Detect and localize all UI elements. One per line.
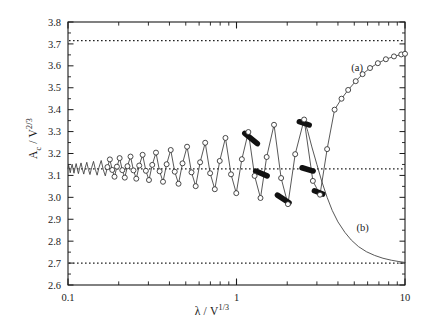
data-point-marker — [279, 176, 284, 181]
data-point-marker — [143, 168, 148, 173]
data-point-marker — [368, 66, 373, 71]
chart-plot-area: 2.62.72.82.93.03.13.23.33.43.53.63.73.80… — [0, 0, 424, 331]
data-point-marker — [353, 79, 358, 84]
data-point-marker — [137, 163, 142, 168]
data-point-marker — [325, 147, 330, 152]
data-point-marker — [403, 51, 408, 56]
y-tick-label: 3.7 — [48, 39, 61, 50]
data-point-marker — [172, 169, 177, 174]
data-point-marker — [105, 165, 110, 170]
data-point-marker — [223, 135, 228, 140]
y-tick-label: 3.4 — [48, 104, 62, 115]
y-tick-label: 3.3 — [48, 126, 61, 137]
data-point-marker — [239, 157, 244, 162]
figure-container: Ac / V2/3 λ / V1/3 2.62.72.82.93.03.13.2… — [0, 0, 424, 331]
data-point-marker — [332, 107, 337, 112]
data-point-marker — [198, 160, 203, 165]
data-point-marker — [164, 162, 169, 167]
data-point-marker — [168, 147, 173, 152]
data-point-marker — [157, 169, 162, 174]
y-tick-label: 2.9 — [48, 214, 61, 225]
data-point-marker — [131, 168, 136, 173]
branch-a-label: (a) — [351, 62, 363, 74]
y-tick-label: 3.0 — [48, 192, 61, 203]
data-point-marker — [203, 140, 208, 145]
data-point-marker — [114, 164, 119, 169]
y-tick-label: 3.2 — [48, 148, 61, 159]
data-point-marker — [180, 161, 185, 166]
data-point-marker — [229, 172, 234, 177]
data-point-marker — [272, 122, 277, 127]
x-tick-label: 1 — [234, 292, 239, 303]
data-point-marker — [246, 130, 251, 135]
data-point-marker — [150, 162, 155, 167]
data-point-marker — [185, 144, 190, 149]
data-point-marker — [107, 157, 112, 162]
data-point-marker — [208, 171, 213, 176]
data-point-marker — [140, 152, 145, 157]
spiral-branch — [68, 54, 405, 204]
data-point-marker — [391, 54, 396, 59]
data-point-marker — [264, 155, 269, 160]
thick-highlight-segments — [245, 122, 323, 203]
x-tick-label: 0.1 — [61, 292, 74, 303]
data-point-marker — [134, 176, 139, 181]
y-tick-label: 3.6 — [48, 60, 61, 71]
data-point-marker — [161, 179, 166, 184]
x-tick-label: 10 — [400, 292, 411, 303]
data-point-marker — [383, 57, 388, 62]
data-point-marker — [128, 154, 133, 159]
data-point-marker — [318, 192, 323, 197]
data-point-marker — [189, 170, 194, 175]
thick-segment-5 — [302, 168, 313, 171]
y-tick-label: 3.8 — [48, 17, 61, 28]
branch-b-label: (b) — [356, 222, 369, 234]
y-tick-label: 2.7 — [48, 258, 61, 269]
data-point-marker — [339, 96, 344, 101]
data-point-marker — [117, 156, 122, 161]
data-point-marker — [120, 168, 125, 173]
y-tick-label: 3.5 — [48, 82, 61, 93]
y-tick-label: 2.8 — [48, 236, 61, 247]
data-point-marker — [153, 150, 158, 155]
y-tick-label: 3.1 — [48, 170, 61, 181]
curve-annotations: (a)(b) — [351, 62, 369, 234]
y-tick-label: 2.6 — [48, 280, 61, 291]
data-point-marker — [146, 178, 151, 183]
data-point-marker — [125, 164, 130, 169]
data-point-marker — [252, 173, 257, 178]
data-point-marker — [212, 187, 217, 192]
asymptote-lines — [69, 41, 404, 263]
data-point-marker — [234, 191, 239, 196]
data-point-marker — [193, 184, 198, 189]
data-point-marker — [258, 195, 263, 200]
data-point-marker — [293, 152, 298, 157]
data-point-marker — [375, 61, 380, 66]
data-point-marker — [112, 174, 117, 179]
data-point-marker — [176, 181, 181, 186]
data-point-marker — [346, 87, 351, 92]
data-point-marker — [302, 117, 307, 122]
data-point-marker — [110, 167, 115, 172]
data-point-marker — [310, 178, 315, 183]
data-point-marker — [122, 175, 127, 180]
data-point-marker — [217, 158, 222, 163]
data-point-marker — [285, 202, 290, 207]
